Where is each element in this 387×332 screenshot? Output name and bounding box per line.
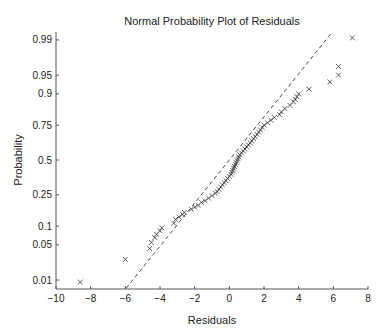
x-marker: [327, 79, 332, 84]
y-tick-label: 0.01: [33, 275, 53, 286]
y-tick-label: 0.75: [33, 120, 53, 131]
y-tick-label: 0.99: [33, 34, 53, 45]
y-tick-label: 0.5: [38, 155, 52, 166]
x-marker: [149, 240, 154, 245]
reference-line: [126, 32, 332, 288]
data-points: [78, 36, 355, 285]
x-marker: [295, 94, 300, 99]
y-tick-label: 0.9: [38, 88, 52, 99]
x-marker: [206, 196, 211, 201]
y-axis-label: Probability: [12, 134, 24, 186]
x-marker: [123, 257, 128, 262]
x-marker: [272, 115, 277, 120]
chart-canvas: Normal Probability Plot of Residuals −10…: [0, 0, 387, 332]
x-marker: [336, 64, 341, 69]
y-tick-label: 0.05: [33, 239, 53, 250]
x-tick-label: −6: [120, 293, 132, 304]
x-tick-label: −4: [154, 293, 166, 304]
normal-probability-plot: Normal Probability Plot of Residuals −10…: [0, 0, 387, 332]
x-marker: [210, 193, 215, 198]
chart-title: Normal Probability Plot of Residuals: [124, 15, 300, 27]
x-marker: [296, 91, 301, 96]
x-marker: [293, 97, 298, 102]
x-axis-label: Residuals: [188, 314, 237, 326]
x-tick-label: 0: [227, 293, 233, 304]
x-marker: [147, 246, 152, 251]
x-marker: [182, 210, 187, 215]
x-tick-label: 8: [365, 293, 371, 304]
x-marker: [282, 106, 287, 111]
x-marker: [262, 123, 267, 128]
x-marker: [265, 120, 270, 125]
x-tick-label: 6: [331, 293, 337, 304]
x-marker: [350, 36, 355, 41]
x-marker: [215, 189, 220, 194]
x-tick-label: −8: [85, 293, 97, 304]
reference-dashed-line: [126, 32, 332, 288]
x-tick-label: 2: [261, 293, 267, 304]
axes: −10−8−6−4−2024680.010.050.10.250.50.750.…: [33, 32, 372, 304]
x-marker: [269, 118, 274, 123]
y-tick-label: 0.25: [33, 189, 53, 200]
y-tick-label: 0.1: [38, 221, 52, 232]
x-tick-label: −2: [189, 293, 201, 304]
x-marker: [307, 87, 312, 92]
x-tick-label: −10: [48, 293, 65, 304]
y-tick-label: 0.95: [33, 70, 53, 81]
x-tick-label: 4: [296, 293, 302, 304]
x-marker: [258, 128, 263, 133]
x-marker: [260, 125, 265, 130]
x-marker: [336, 73, 341, 78]
x-marker: [291, 99, 296, 104]
x-marker: [78, 280, 83, 285]
